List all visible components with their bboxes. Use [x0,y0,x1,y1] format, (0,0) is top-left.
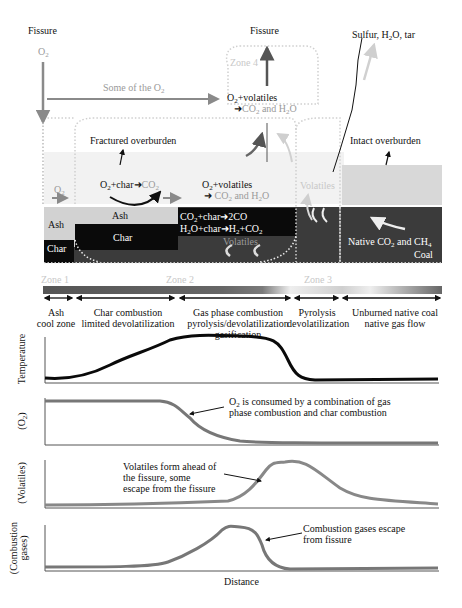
fissure-center-label: Fissure [250,25,279,36]
char-center-label: Char [113,232,132,243]
volatiles-zone2-label: Volatiles [223,236,258,247]
fractured-overburden-label: Fractured overburden [90,135,176,146]
overburden-band [44,152,344,204]
temperature-axis-label: Temperature [17,329,27,389]
intact-overburden-block [342,165,442,205]
sulfur-label: Sulfur, H2O, tar [352,29,415,40]
intact-overburden-label: Intact overburden [350,135,421,146]
zone-gradient-bar [43,286,442,294]
zone4-reaction-2: ➜CO2 and H2O [234,103,297,114]
volatiles-zone3-label: Volatiles [300,180,335,191]
ash-left-label: Ash [48,219,64,230]
crack-line [333,38,362,172]
range-char-label: Char combustionlimited devolatilization [78,307,178,329]
native-gas-label: Native CO2 and CH4 [348,236,431,247]
combustion-annotation-arrow [266,533,302,540]
zone4-label: Zone 4 [230,57,258,68]
temperature-curve [45,335,438,380]
ash-center-label: Ash [112,210,128,221]
combustion-annotation: Combustion gases escape from fissure [303,523,405,545]
range-pyrolysis-label: Pyrolysisdevolatilization [287,307,347,329]
sulfur-arrow [364,45,374,80]
zone1-label: Zone 1 [41,274,69,285]
o2-annotation-arrow [190,407,224,414]
range-gas-phase-label: Gas phase combustionpyrolysis/devolatili… [178,307,298,340]
fissure-left-label: Fissure [28,25,57,36]
distance-axis-label: Distance [224,576,259,587]
range-ash-label: Ashcool zone [34,307,78,329]
combustion-axis-label: (Combustiongases) [9,515,29,581]
zone3-label: Zone 3 [304,274,332,285]
o2-small-label: O2 [54,184,65,195]
zone2-label: Zone 2 [166,274,194,285]
range-unburned-label: Unburned native coalnative gas flow [345,307,445,329]
o2-top-label: O2 [38,46,49,57]
some-of-o2-label: Some of the O2 [103,82,165,93]
volatiles-curve [45,461,438,505]
char-reaction-label: O2+char➜CO2 [100,179,159,190]
zone4-reaction-1: O2+volatiles [227,92,277,103]
gasification-reaction-2: H2O+char➜H2+CO2 [180,223,263,234]
coal-label: Coal [414,249,433,260]
zone2-reaction-2: ➜ CO2 and H2O [204,190,269,201]
char-left-label: Char [47,243,66,254]
o2-axis-label: (O2) [17,406,27,436]
volatiles-annotation: Volatiles form ahead of the fissure, som… [123,461,216,494]
gasification-reaction-1: CO2+char➜2CO [180,211,247,222]
volatiles-axis-label: (Volatiles) [17,453,27,513]
volatiles-annotation-arrow [224,474,261,481]
intact-arrow [386,152,389,165]
zone2-reaction-1: O2+volatiles [202,179,252,190]
o2-annotation: O2 is consumed by a combination of gas p… [229,396,391,418]
